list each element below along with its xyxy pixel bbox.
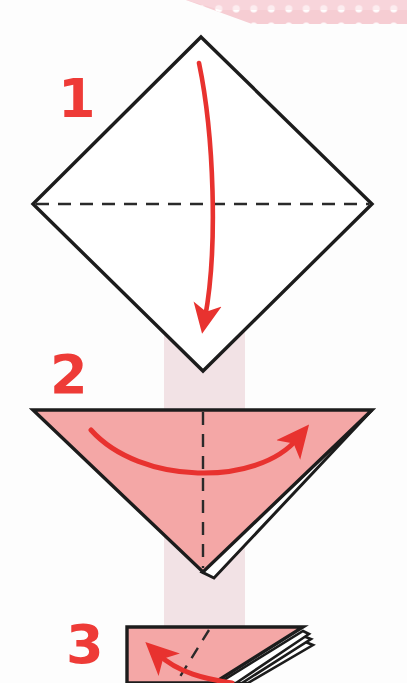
step-number-2: 2 bbox=[50, 348, 87, 402]
step-number-3: 3 bbox=[66, 618, 103, 672]
step-3-figure bbox=[127, 627, 313, 683]
step-2-figure bbox=[33, 410, 372, 578]
step-number-1: 1 bbox=[58, 72, 95, 126]
polka-dot-ribbon bbox=[186, 0, 407, 24]
origami-instruction-page: 1 2 3 bbox=[0, 0, 407, 683]
